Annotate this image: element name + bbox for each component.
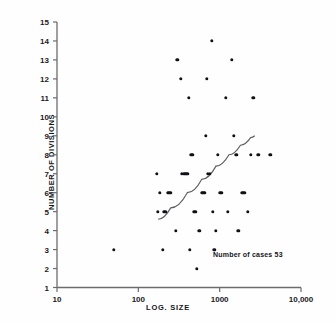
x-tick-label: 10,000 [289, 295, 313, 304]
y-tick-label: 13 [29, 55, 49, 64]
x-tick-label: 10 [53, 295, 62, 304]
y-tick-label: 12 [29, 74, 49, 83]
y-tick-label: 10 [29, 112, 49, 121]
y-tick-label: 3 [29, 245, 49, 254]
y-tick-label: 2 [29, 264, 49, 273]
y-tick-label: 5 [29, 207, 49, 216]
plot-canvas [0, 0, 336, 323]
y-tick-label: 11 [29, 93, 49, 102]
axis-lines [57, 22, 301, 288]
fit-curve [158, 136, 255, 219]
scatter-chart: NUMBER OF DIVISIONS LOG. SIZE 1234567891… [0, 0, 336, 323]
y-tick-label: 14 [29, 36, 49, 45]
y-tick-label: 1 [29, 283, 49, 292]
cases-annotation: Number of cases 53 [213, 251, 283, 258]
y-tick-label: 7 [29, 169, 49, 178]
y-tick-label: 6 [29, 188, 49, 197]
y-tick-label: 8 [29, 150, 49, 159]
y-tick-label: 4 [29, 226, 49, 235]
y-tick-label: 9 [29, 131, 49, 140]
x-tick-marks [57, 288, 301, 293]
y-tick-label: 15 [29, 18, 49, 27]
x-tick-label: 1000 [211, 295, 229, 304]
x-tick-label: 100 [132, 295, 145, 304]
